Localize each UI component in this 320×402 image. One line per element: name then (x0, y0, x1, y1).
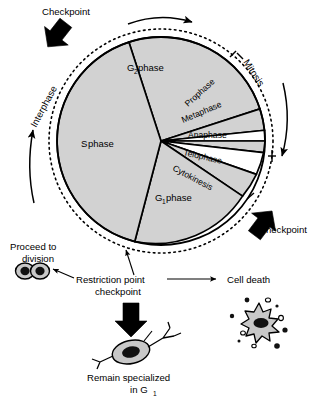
cycle-direction-arrow-right (282, 83, 287, 156)
arrow-restriction-to-remain (115, 303, 147, 337)
apoptotic-cell-icon (230, 298, 288, 349)
label-g2-phase-suffix: phase (138, 62, 164, 73)
label-restriction-point-line1: Restriction point (76, 274, 145, 285)
label-proceed-line1: Proceed to (10, 241, 56, 252)
dividing-cells-icon (16, 263, 50, 279)
cycle-direction-arrow-top (128, 17, 192, 24)
label-s-phase-text: S (81, 138, 87, 149)
checkpoint-arrow-bottom (242, 202, 284, 244)
label-anaphase: Anaphase (188, 130, 227, 140)
label-checkpoint-top: Checkpoint (42, 6, 90, 17)
label-remain-line1: Remain specialized (87, 372, 170, 383)
label-checkpoint-bottom: Checkpoint (259, 224, 307, 235)
checkpoint-arrow-top (36, 14, 78, 56)
cell-cycle-diagram: G 2 phase S phase G 1 phase Prophase Met… (0, 0, 320, 402)
label-remain-line2: in G 1 (130, 384, 157, 397)
label-remain-line2-text: in G (130, 384, 148, 395)
label-cell-death: Cell death (227, 274, 270, 285)
label-s-phase: S phase (81, 138, 114, 149)
label-proceed-line2: division (22, 253, 54, 264)
cycle-direction-arrow-left (30, 130, 34, 203)
label-g1-phase-suffix: phase (166, 192, 192, 203)
figure-canvas: G 2 phase S phase G 1 phase Prophase Met… (0, 0, 320, 402)
arrow-restriction-to-cycle (126, 250, 134, 275)
mitosis-bracket-top-2 (237, 53, 243, 59)
label-s-phase-suffix: phase (88, 138, 114, 149)
label-restriction-point-line2: checkpoint (95, 286, 141, 297)
label-remain-line2-sub: 1 (153, 390, 157, 397)
arrow-restriction-to-division (53, 269, 74, 278)
